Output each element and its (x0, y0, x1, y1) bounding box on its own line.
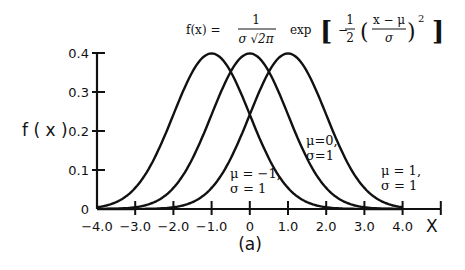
formula-left-paren: ( (360, 19, 369, 44)
formula: f(x) = 1 σ √2π exp [ − 1 2 ( x − μ σ ) 2… (186, 13, 444, 46)
formula-left-bracket: [ (320, 16, 332, 46)
y-tick-label: 0.4 (68, 46, 89, 61)
x-tick-label: 2.0 (316, 219, 337, 234)
formula-half-denominator: 2 (346, 31, 354, 45)
formula-lhs: f(x) = (186, 23, 220, 37)
annotation-mu-1-line2: σ = 1 (381, 178, 417, 193)
formula-frac2-denominator: σ (385, 31, 394, 45)
x-tick-label: 4.0 (392, 219, 413, 234)
figure-caption: (a) (238, 234, 262, 254)
annotation-mu-neg1-line2: σ = 1 (230, 181, 266, 196)
y-axis-label: f ( x ) (22, 120, 68, 140)
formula-power: 2 (418, 13, 424, 24)
y-tick-label: 0 (81, 202, 89, 217)
annotation-mu-neg1-line1: μ = −1, (230, 166, 281, 181)
y-tick-label: 0.1 (68, 163, 89, 178)
axes: 00.10.20.30.4−4.0−3.0−2.0−1.001.02.03.04… (68, 46, 440, 234)
x-tick-label: −2.0 (158, 219, 190, 234)
formula-right-bracket: ] (432, 16, 444, 46)
normal-distribution-chart: f(x) = 1 σ √2π exp [ − 1 2 ( x − μ σ ) 2… (0, 0, 465, 270)
x-tick-label: −3.0 (119, 219, 151, 234)
x-tick-label: 0 (246, 219, 254, 234)
formula-frac-denominator: σ √2π (238, 32, 274, 46)
x-tick-label: 3.0 (354, 219, 375, 234)
x-tick-label: −1.0 (196, 219, 228, 234)
formula-exp: exp (290, 23, 312, 37)
x-tick-label: 1.0 (278, 219, 299, 234)
annotation-mu-0-line2: σ=1 (306, 148, 334, 163)
formula-half-numerator: 1 (346, 13, 354, 27)
x-axis-label: X (426, 216, 438, 236)
formula-frac2-numerator: x − μ (373, 13, 405, 27)
y-tick-label: 0.2 (68, 124, 89, 139)
annotation-mu-0-line1: μ=0, (306, 133, 338, 148)
formula-right-paren: ) (407, 19, 416, 44)
x-tick-label: −4.0 (81, 219, 113, 234)
annotation-mu-1-line1: μ = 1, (381, 163, 421, 178)
formula-frac-numerator: 1 (252, 13, 260, 27)
y-tick-label: 0.3 (68, 85, 89, 100)
